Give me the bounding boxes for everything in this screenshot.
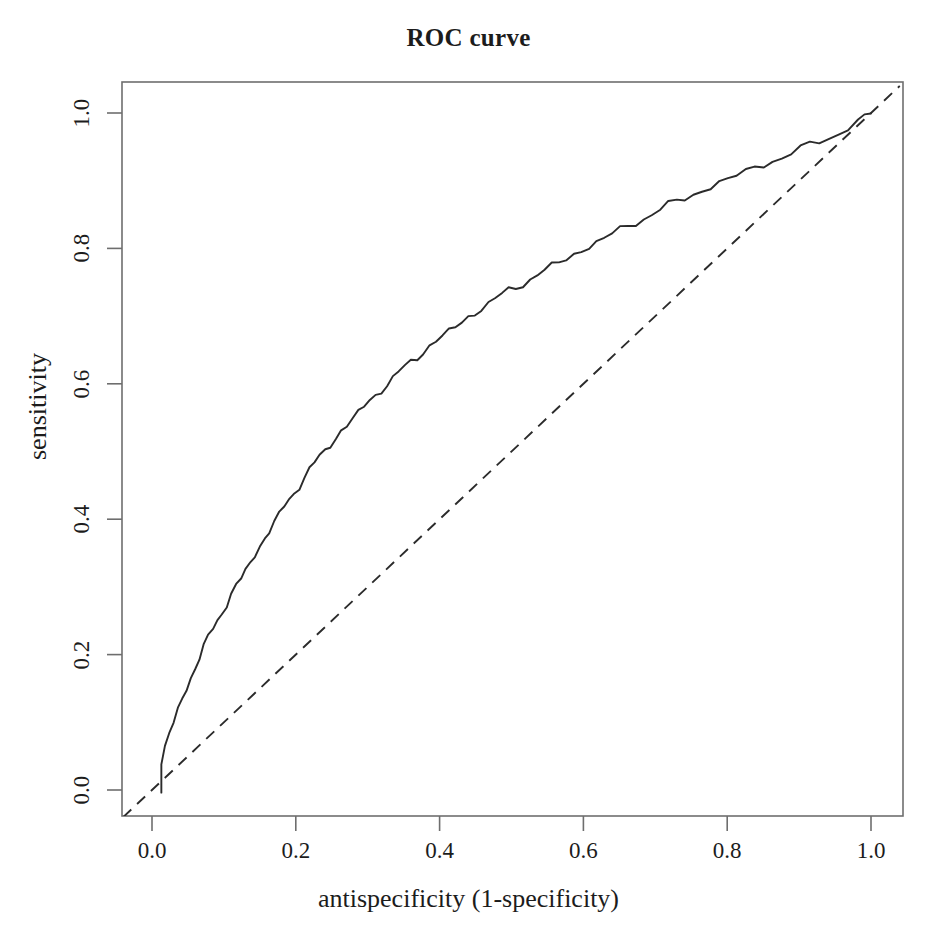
- y-tick-label: 0.4: [69, 505, 95, 534]
- y-tick-label: 0.0: [69, 776, 95, 805]
- x-tick-label: 1.0: [857, 838, 886, 864]
- y-tick-label: 0.8: [69, 234, 95, 263]
- roc-curve-line: [161, 113, 871, 792]
- y-axis-ticks: [107, 113, 122, 790]
- x-axis-ticks: [152, 816, 871, 831]
- y-tick-label: 0.6: [69, 369, 95, 398]
- plot-canvas: [0, 0, 937, 939]
- y-tick-label: 0.2: [69, 640, 95, 669]
- y-axis-title: sensitivity: [23, 420, 53, 460]
- chance-diagonal-line: [123, 86, 900, 817]
- x-axis-title: antispecificity (1-specificity): [0, 884, 937, 914]
- x-tick-label: 0.6: [569, 838, 598, 864]
- roc-chart-figure: ROC curve 0.00.20.40.60.81.0 0.00.20.40.…: [0, 0, 937, 939]
- x-tick-label: 0.4: [425, 838, 454, 864]
- y-tick-label: 1.0: [69, 99, 95, 128]
- x-tick-label: 0.8: [713, 838, 742, 864]
- x-tick-label: 0.0: [138, 838, 167, 864]
- plot-frame: [122, 82, 903, 816]
- x-tick-label: 0.2: [281, 838, 310, 864]
